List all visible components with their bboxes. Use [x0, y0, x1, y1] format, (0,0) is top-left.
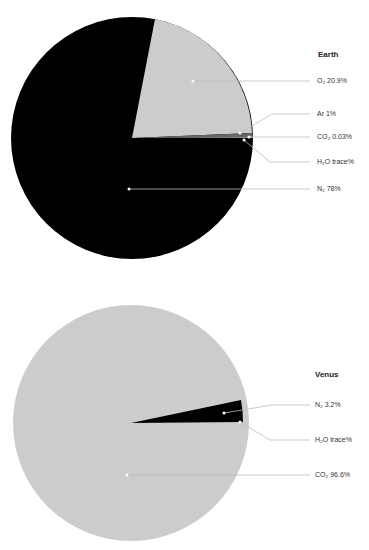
pie-charts	[0, 0, 369, 550]
venus-label-h2o: H₂O trace%	[315, 436, 352, 443]
earth-label-ar: Ar 1%	[317, 110, 336, 117]
venus-label-n2: N₂ 3.2%	[315, 401, 341, 408]
earth-label-o2: O₂ 20.9%	[317, 77, 347, 84]
earth-label-co2: CO₂ 0.03%	[317, 133, 352, 140]
earth-label-h2o: H₂O trace%	[317, 158, 354, 165]
venus-label-co2: CO₂ 96.6%	[315, 471, 350, 478]
venus-title: Venus	[315, 370, 339, 379]
earth-pie	[11, 17, 310, 259]
venus-pie	[13, 305, 310, 541]
earth-title: Earth	[318, 50, 338, 59]
earth-label-n2: N₂ 78%	[317, 185, 341, 192]
